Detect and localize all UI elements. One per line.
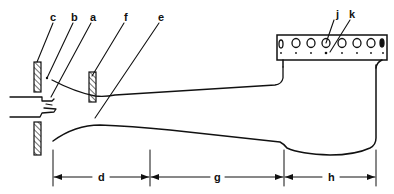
- label-d: d: [98, 171, 105, 183]
- outer-plate-c: [34, 62, 41, 155]
- label-k: k: [349, 8, 356, 20]
- upper-mixing-tube-wall: [52, 67, 283, 96]
- burner-diagram: c b a f e j k d g h: [0, 0, 394, 194]
- label-e: e: [158, 11, 164, 23]
- inner-plate-f: [89, 72, 96, 102]
- label-a: a: [90, 11, 97, 23]
- burner-head: [277, 35, 387, 68]
- label-j: j: [335, 8, 339, 20]
- lower-mixing-tube-wall: [53, 65, 376, 155]
- label-c: c: [50, 11, 56, 23]
- label-g: g: [214, 171, 221, 183]
- label-h: h: [328, 171, 335, 183]
- label-f: f: [124, 11, 128, 23]
- diagram-svg: c b a f e j k d g h: [0, 0, 394, 194]
- gas-nozzle: [10, 97, 56, 117]
- label-b: b: [71, 11, 78, 23]
